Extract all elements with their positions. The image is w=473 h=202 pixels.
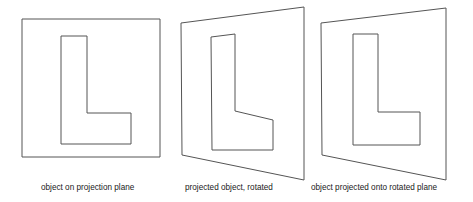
- projection-figure: object on projection plane projected obj…: [0, 0, 473, 202]
- caption-panel-2: projected object, rotated: [185, 182, 273, 194]
- caption-panel-1: object on projection plane: [41, 182, 134, 194]
- caption-row: object on projection plane projected obj…: [0, 182, 473, 202]
- figure-canvas: [0, 0, 473, 202]
- projection-plane-2: [181, 7, 304, 180]
- projection-plane-3: [321, 8, 446, 180]
- caption-panel-3: object projected onto rotated plane: [311, 182, 437, 194]
